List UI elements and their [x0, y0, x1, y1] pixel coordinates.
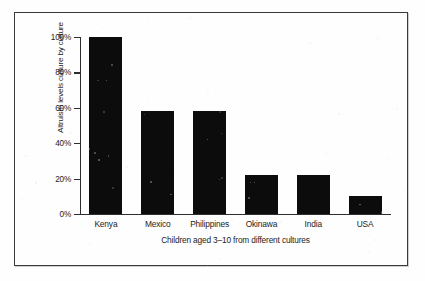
scan-speck: [237, 16, 238, 17]
y-tick-label-0: 0%: [11, 210, 71, 219]
bar-okinawa[interactable]: [245, 175, 278, 214]
y-tick-label-text: 100%: [51, 33, 71, 42]
bar-india[interactable]: [297, 175, 330, 214]
scan-speck: [107, 263, 108, 264]
y-tick-label-60: 60%: [11, 104, 71, 113]
scan-speck: [219, 258, 221, 260]
y-tick-label-text: 0%: [60, 210, 71, 219]
x-category-label-usa: USA: [325, 219, 405, 229]
figure-frame: Altruism levels culture by culture 100% …: [14, 12, 408, 266]
y-tick-0: [74, 214, 80, 215]
bar-usa[interactable]: [349, 196, 382, 214]
scan-speck: [84, 33, 85, 34]
y-tick-label-text: 40%: [55, 139, 71, 148]
scan-speck: [207, 265, 208, 266]
x-axis-title: Children aged 3–10 from different cultur…: [80, 235, 391, 245]
scan-speck: [253, 16, 254, 17]
y-tick-label-text: 80%: [55, 68, 71, 77]
scan-speck: [250, 258, 252, 260]
y-axis-title: Altruism levels culture by culture: [56, 3, 65, 153]
scan-speck: [102, 27, 103, 28]
bar-kenya[interactable]: [89, 37, 122, 214]
scan-speck: [396, 108, 398, 110]
y-tick-label-text: 60%: [55, 104, 71, 113]
y-tick-label-80: 80%: [11, 68, 71, 77]
y-tick-label-text: 20%: [55, 175, 71, 184]
scan-speck: [404, 183, 406, 185]
scan-speck: [119, 23, 120, 24]
scan-speck: [216, 217, 217, 218]
scan-speck: [21, 199, 22, 200]
scan-speck: [24, 155, 26, 157]
scan-speck: [44, 99, 45, 100]
figure-screenshot: Altruism levels culture by culture 100% …: [0, 0, 425, 281]
scan-speck: [27, 131, 28, 132]
scan-speck: [368, 251, 370, 253]
bar-philippines[interactable]: [193, 111, 226, 214]
scan-speck: [150, 248, 151, 249]
scan-speck: [38, 234, 39, 235]
plot-area: [80, 37, 391, 214]
x-axis-line: [80, 214, 391, 215]
y-tick-label-40: 40%: [11, 139, 71, 148]
scan-speck: [189, 17, 191, 19]
scan-speck: [403, 190, 405, 192]
y-tick-label-100: 100%: [11, 33, 71, 42]
scan-speck: [70, 132, 72, 134]
scan-speck: [147, 20, 149, 22]
bar-mexico[interactable]: [141, 111, 174, 214]
scan-speck: [387, 23, 389, 25]
scan-speck: [309, 23, 310, 24]
y-tick-label-20: 20%: [11, 175, 71, 184]
